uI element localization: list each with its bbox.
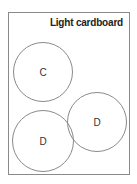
circle-label: C	[39, 67, 46, 78]
circle-d-left: D	[12, 110, 74, 172]
circle-label: D	[39, 136, 46, 147]
circle-label: D	[93, 117, 100, 128]
sheet-title: Light cardboard	[50, 17, 123, 28]
circle-c: C	[13, 42, 73, 102]
circle-d-right: D	[67, 92, 127, 152]
